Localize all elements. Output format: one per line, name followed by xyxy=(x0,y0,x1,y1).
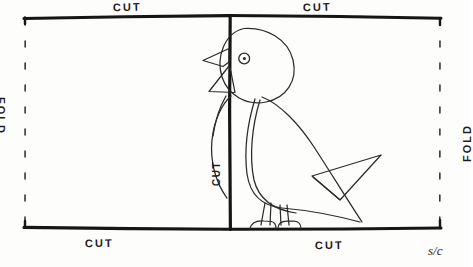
cut-line-top-right xyxy=(229,16,441,19)
bird-body xyxy=(246,99,360,222)
bird-neck-left xyxy=(213,96,226,136)
label-cut-bottom-right: CUT xyxy=(315,240,344,251)
bird-eye-pupil xyxy=(243,57,246,60)
artist-signature: s/c xyxy=(428,243,442,259)
label-fold-right: FOLD xyxy=(462,124,473,162)
bird-wing xyxy=(262,97,362,222)
bird-left-foot xyxy=(250,221,276,229)
cut-line-bottom-left xyxy=(24,227,230,229)
bird-left-leg xyxy=(261,203,265,225)
bird-tail xyxy=(312,155,381,200)
cut-line-center-vertical xyxy=(230,16,231,229)
label-cut-top-right: CUT xyxy=(303,2,332,14)
label-fold-left: FOLD xyxy=(0,97,6,135)
label-cut-center-vertical: CUT xyxy=(212,161,222,186)
label-cut-bottom-left: CUT xyxy=(85,238,114,249)
bird-upper-beak xyxy=(203,49,229,67)
label-cut-top-left: CUT xyxy=(113,2,142,14)
cut-line-top-left xyxy=(24,16,229,19)
cut-line-bottom-right xyxy=(230,228,441,229)
